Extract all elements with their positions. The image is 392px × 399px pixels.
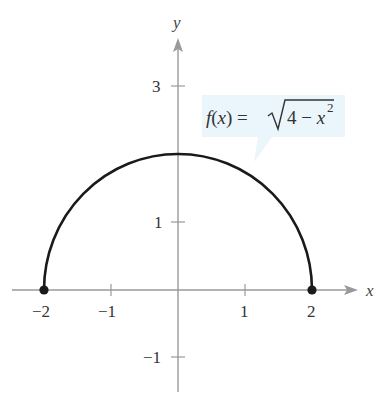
chart-figure: x −2 −1 1 2 y 3 1 −1 f(x) = 4 − x 2 (0, 0, 392, 399)
y-tick-label: 1 (154, 213, 163, 232)
svg-text:4 − x: 4 − x (287, 107, 326, 128)
function-label-callout (202, 95, 345, 162)
y-axis-label: y (171, 13, 181, 32)
x-axis-label: x (365, 281, 374, 300)
x-tick-label: −1 (98, 302, 116, 321)
x-tick-label: 1 (240, 302, 249, 321)
endpoint-dot-left (39, 285, 48, 294)
chart-svg: x −2 −1 1 2 y 3 1 −1 f(x) = 4 − x 2 (0, 0, 392, 399)
endpoint-dot-right (307, 285, 316, 294)
y-tick-label: 3 (152, 77, 161, 96)
svg-text:f(x) =: f(x) = (206, 107, 248, 129)
exponent: 2 (327, 100, 334, 115)
y-tick-label: −1 (143, 348, 161, 367)
x-axis: x −2 −1 1 2 (12, 281, 374, 321)
x-tick-label: −2 (32, 302, 50, 321)
x-tick-label: 2 (307, 302, 316, 321)
y-axis: y 3 1 −1 (143, 13, 185, 392)
callout-box (202, 95, 345, 162)
